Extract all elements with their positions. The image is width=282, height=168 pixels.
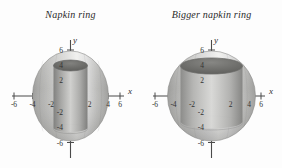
xtick-label--6: -6: [11, 100, 17, 109]
solid-bigger-napkin-ring: [168, 51, 256, 141]
hole-inner-wall: [181, 66, 243, 129]
plot-bigger-napkin-ring: -6 -4 -2 2 4 6 6 4 2 -2 -4 -6 x y: [141, 28, 282, 168]
ytick-label--6: -6: [57, 139, 63, 148]
figure-title-napkin-ring: Napkin ring: [0, 9, 141, 20]
ytick-label-4: 4: [200, 61, 204, 70]
x-axis-label: x: [127, 86, 132, 96]
ytick-label--4: -4: [57, 123, 63, 132]
xtick-label--4: -4: [170, 100, 176, 109]
figure-napkin-ring: Napkin ring: [0, 0, 141, 168]
xtick-label-6: 6: [118, 100, 122, 109]
xtick-label--2: -2: [48, 100, 54, 109]
plot-napkin-ring: -6 -4 -2 2 4 6 6 4 2 -2 -4 -6 x y: [0, 28, 141, 168]
figure-bigger-napkin-ring: Bigger napkin ring: [141, 0, 282, 168]
ytick-label-2: 2: [59, 76, 63, 85]
ytick-label--2: -2: [57, 108, 63, 117]
xtick-label-4: 4: [247, 100, 251, 109]
ytick-label-6: 6: [200, 46, 204, 55]
ytick-label-2: 2: [200, 76, 204, 85]
xtick-label-6: 6: [259, 100, 263, 109]
ytick-label--4: -4: [198, 123, 204, 132]
xtick-label-2: 2: [229, 100, 233, 109]
y-axis-label: y: [213, 35, 218, 45]
figure-title-bigger-napkin-ring: Bigger napkin ring: [141, 9, 282, 20]
ytick-label--2: -2: [198, 108, 204, 117]
ytick-label--6: -6: [198, 139, 204, 148]
xtick-label--2: -2: [189, 100, 195, 109]
ytick-label-4: 4: [59, 61, 63, 70]
napkin-ring-figure-pair: Napkin ring: [0, 0, 282, 168]
x-axis-label: x: [268, 86, 273, 96]
xtick-label--4: -4: [29, 100, 35, 109]
xtick-label-2: 2: [88, 100, 92, 109]
solid-napkin-ring: [33, 51, 109, 141]
xtick-label--6: -6: [152, 100, 158, 109]
xtick-label-4: 4: [106, 100, 110, 109]
ytick-label-6: 6: [59, 46, 63, 55]
y-axis-label: y: [72, 35, 77, 45]
